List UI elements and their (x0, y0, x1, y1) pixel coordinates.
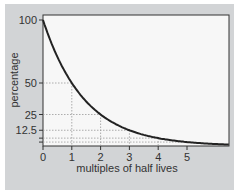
y-tick-label: 50 (25, 77, 37, 89)
y-axis-label: percentage (8, 52, 20, 107)
y-tick-label: 100 (19, 14, 37, 26)
x-axis-ticks: 012345 (40, 146, 190, 163)
x-tick-label: 5 (184, 151, 190, 163)
x-tick-label: 1 (69, 151, 75, 163)
x-axis-label: multiples of half lives (76, 162, 178, 174)
y-tick-label: 12.5 (16, 124, 37, 136)
half-life-chart: 100502512.5 012345 multiples of half liv… (0, 0, 239, 196)
y-tick-label: 25 (25, 109, 37, 121)
x-tick-label: 0 (40, 151, 46, 163)
